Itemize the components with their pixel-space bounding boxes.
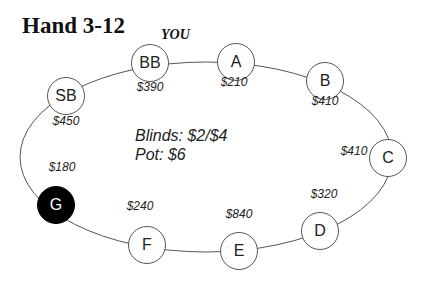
- seat-label: BB: [139, 54, 160, 72]
- blinds-text: Blinds: $2/$4: [135, 126, 228, 145]
- seat-g: G: [37, 186, 75, 224]
- seat-bb: BB: [131, 44, 169, 82]
- table-info: Blinds: $2/$4 Pot: $6: [135, 126, 228, 164]
- seat-label: D: [314, 222, 326, 240]
- seat-c: C: [369, 139, 407, 177]
- seat-label: C: [382, 149, 394, 167]
- seat-d: D: [301, 212, 339, 250]
- seat-label: A: [231, 53, 242, 71]
- seat-sb: SB: [47, 77, 85, 115]
- seat-label: B: [320, 72, 331, 90]
- seat-e: E: [220, 232, 258, 270]
- seat-f: F: [128, 226, 166, 264]
- stack-amount: $410: [341, 144, 368, 158]
- stack-amount: $180: [49, 160, 76, 174]
- stack-amount: $450: [53, 114, 80, 128]
- seat-label: SB: [55, 87, 76, 105]
- stack-amount: $390: [137, 80, 164, 94]
- pot-text: Pot: $6: [135, 145, 228, 164]
- seat-label: F: [142, 236, 152, 254]
- stack-amount: $840: [226, 207, 253, 221]
- stack-amount: $320: [311, 187, 338, 201]
- stack-amount: $410: [312, 94, 339, 108]
- stack-amount: $210: [221, 75, 248, 89]
- stack-amount: $240: [127, 199, 154, 213]
- seat-label: E: [234, 242, 245, 260]
- seat-label: G: [50, 196, 62, 214]
